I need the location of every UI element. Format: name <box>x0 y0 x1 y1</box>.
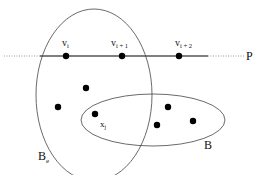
diagram-canvas: vi vi + 1 vi + 2 P xj B Be <box>0 0 265 175</box>
point-xj <box>92 111 98 117</box>
label-xj: xj <box>100 119 107 130</box>
label-vi: vi <box>62 37 69 49</box>
point <box>190 118 196 124</box>
label-be: Be <box>38 149 49 165</box>
label-p: P <box>246 49 253 63</box>
ellipse-be <box>36 9 152 175</box>
point <box>165 104 171 110</box>
label-b: B <box>204 138 212 152</box>
point <box>55 104 61 110</box>
point <box>154 122 160 128</box>
point <box>83 85 89 91</box>
vertex-vi <box>63 53 69 59</box>
label-vi2: vi + 2 <box>175 37 192 49</box>
label-vi1: vi + 1 <box>111 37 128 49</box>
vertex-vi2 <box>176 53 182 59</box>
vertex-vi1 <box>119 53 125 59</box>
